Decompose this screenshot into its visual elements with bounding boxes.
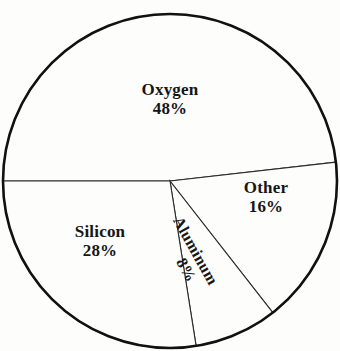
slice-label-silicon-name: Silicon (48, 222, 152, 241)
slice-label-oxygen-name: Oxygen (118, 80, 222, 99)
slice-label-silicon-value: 28% (48, 241, 152, 260)
slice-label-oxygen: Oxygen 48% (118, 80, 222, 118)
pie-chart-canvas (0, 0, 340, 351)
slice-label-other-value: 16% (226, 197, 306, 216)
pie-slice-silicon[interactable] (3, 181, 196, 348)
slice-label-other: Other 16% (226, 178, 306, 216)
slice-label-oxygen-value: 48% (118, 99, 222, 118)
slice-label-silicon: Silicon 28% (48, 222, 152, 260)
slice-label-other-name: Other (226, 178, 306, 197)
pie-chart-figure: Oxygen 48% Other 16% Silicon 28% Aluminu… (0, 0, 340, 351)
